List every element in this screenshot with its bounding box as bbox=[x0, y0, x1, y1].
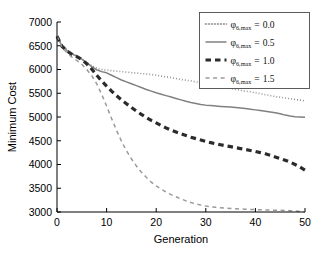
y-tick-label: 5000 bbox=[29, 111, 53, 123]
legend-equals: = bbox=[254, 74, 259, 84]
x-tick-label: 50 bbox=[299, 216, 311, 228]
y-tick-label: 6500 bbox=[29, 40, 53, 52]
legend-value: 0.5 bbox=[263, 38, 275, 48]
legend-equals: = bbox=[254, 38, 259, 48]
y-axis-title: Minimum Cost bbox=[6, 82, 18, 152]
legend-equals: = bbox=[254, 56, 259, 66]
legend-value: 1.5 bbox=[263, 74, 275, 84]
x-tick-label: 10 bbox=[101, 216, 113, 228]
legend-equals: = bbox=[254, 20, 259, 30]
legend-subscript: 6,max bbox=[236, 42, 252, 49]
y-tick-label: 3500 bbox=[29, 182, 53, 194]
y-tick-label: 3000 bbox=[29, 206, 53, 218]
y-tick-label: 4500 bbox=[29, 135, 53, 147]
x-tick-label: 0 bbox=[54, 216, 60, 228]
line-chart: 300035004000450050005500600065007000 010… bbox=[0, 0, 313, 255]
legend-subscript: 6,max bbox=[236, 24, 252, 31]
y-tick-label: 7000 bbox=[29, 16, 53, 28]
y-tick-label: 6000 bbox=[29, 63, 53, 75]
y-tick-label: 4000 bbox=[29, 158, 53, 170]
x-tick-label: 30 bbox=[200, 216, 212, 228]
x-tick-label: 40 bbox=[250, 216, 262, 228]
x-tick-label: 20 bbox=[150, 216, 162, 228]
legend-subscript: 6,max bbox=[236, 78, 252, 85]
x-axis-title: Generation bbox=[154, 233, 208, 245]
legend-value: 1.0 bbox=[263, 56, 275, 66]
chart-figure: 300035004000450050005500600065007000 010… bbox=[0, 0, 313, 255]
legend-subscript: 6,max bbox=[236, 60, 252, 67]
y-tick-label: 5500 bbox=[29, 87, 53, 99]
legend[interactable]: φ6,max=0.0φ6,max=0.5φ6,max=1.0φ6,max=1.5 bbox=[200, 13, 310, 89]
legend-value: 0.0 bbox=[263, 20, 275, 30]
y-axis-tick-labels: 300035004000450050005500600065007000 bbox=[29, 16, 53, 218]
